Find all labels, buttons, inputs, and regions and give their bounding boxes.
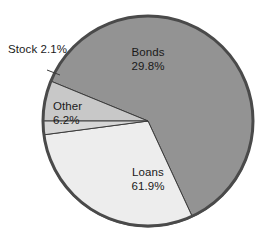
pie-label-loans-name: Loans bbox=[106, 166, 190, 180]
pie-label-stock-value: 2.1% bbox=[41, 43, 68, 55]
pie-chart-canvas bbox=[0, 0, 266, 237]
pie-label-stock: Stock 2.1% bbox=[8, 43, 62, 57]
pie-label-stock-name: Stock bbox=[8, 43, 37, 55]
pie-label-loans: Loans 61.9% bbox=[106, 166, 190, 193]
pie-label-loans-value: 61.9% bbox=[106, 180, 190, 194]
pie-label-other-value: 6.2% bbox=[53, 114, 109, 128]
pie-label-bonds-value: 29.8% bbox=[112, 60, 184, 74]
pie-label-other-name: Other bbox=[53, 100, 109, 114]
pie-label-bonds: Bonds 29.8% bbox=[112, 46, 184, 73]
pie-chart-figure: Bonds 29.8% Loans 61.9% Other 6.2% Stock… bbox=[0, 0, 266, 237]
pie-label-bonds-name: Bonds bbox=[112, 46, 184, 60]
pie-label-other: Other 6.2% bbox=[53, 100, 109, 127]
